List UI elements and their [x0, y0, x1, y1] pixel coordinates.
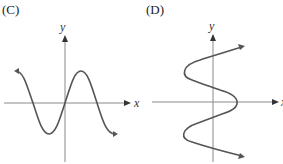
graph-d: (D) x y [142, 0, 283, 164]
y-axis-arrow-icon [62, 35, 68, 42]
curve-left-arrow-icon [14, 68, 19, 74]
y-axis-label: y [208, 19, 215, 33]
graph-c-plot: x y [0, 0, 142, 164]
curve-bottom-arrow-icon [238, 153, 245, 159]
graph-c: (C) x y [0, 0, 142, 164]
x-axis-label: x [280, 95, 283, 109]
curve-top-arrow-icon [238, 44, 245, 50]
graph-d-plot: x y [142, 0, 283, 164]
x-axis-arrow-icon [272, 99, 279, 105]
y-axis-label: y [59, 20, 66, 34]
x-axis-label: x [133, 96, 140, 110]
y-axis-arrow-icon [210, 34, 216, 41]
curve-right-arrow-icon [113, 131, 118, 137]
x-axis-arrow-icon [124, 100, 131, 106]
